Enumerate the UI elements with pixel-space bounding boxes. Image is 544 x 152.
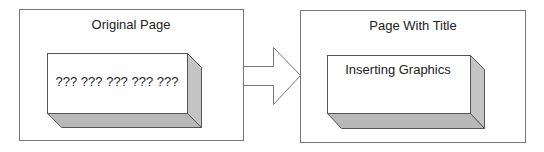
arrow-right-icon	[244, 48, 301, 105]
diagram-canvas: Original Page ??? ??? ??? ??? ??? Page W…	[0, 0, 544, 152]
original-page-title: Original Page	[92, 17, 171, 32]
original-content-box: ??? ??? ??? ??? ???	[48, 54, 202, 128]
original-box-text: ??? ??? ??? ??? ???	[56, 74, 179, 89]
titled-box-text: Inserting Graphics	[345, 62, 451, 77]
original-page-panel: Original Page ??? ??? ??? ??? ???	[20, 10, 244, 141]
page-with-title-title: Page With Title	[369, 18, 456, 33]
page-with-title-panel: Page With Title Inserting Graphics	[301, 11, 526, 143]
titled-content-box: Inserting Graphics	[328, 56, 485, 129]
